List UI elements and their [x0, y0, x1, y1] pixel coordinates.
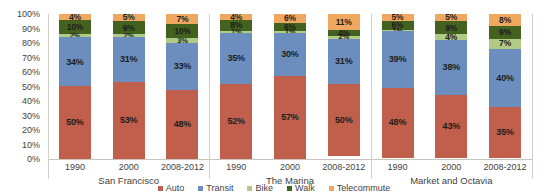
bar-segment-transit[interactable]: 38% [435, 40, 467, 95]
stacked-bar[interactable]: 4%10%2%34%50% [59, 14, 91, 159]
bar-segment-auto[interactable]: 35% [489, 107, 521, 158]
y-axis-tick: 40% [22, 97, 40, 106]
y-axis-tick: 60% [22, 68, 40, 77]
bar-segment-label: 7% [499, 39, 511, 48]
x-axis-tick-label: 2000 [263, 160, 317, 175]
bar-segment-auto[interactable]: 48% [382, 88, 414, 158]
y-axis-tick: 20% [22, 126, 40, 135]
bar-segment-label: 53% [120, 116, 137, 125]
bar-group: 4%8%1%35%52%6%6%1%30%57%11%4%2%31%50%199… [209, 14, 370, 159]
y-axis-tick: 30% [22, 111, 40, 120]
bar-segment-transit[interactable]: 33% [166, 43, 198, 90]
bar-segment-label: 30% [281, 50, 298, 59]
bar-segment-label: 48% [174, 120, 191, 129]
bar-segment-label: 7% [176, 15, 188, 24]
legend-item-bike[interactable]: Bike [247, 184, 273, 193]
y-axis-tick: 50% [22, 82, 40, 91]
bar-segment-transit[interactable]: 34% [59, 37, 91, 86]
bar-segment-auto[interactable]: 57% [274, 76, 306, 159]
chart-legend: AutoTransitBikeWalkTelecommute [0, 184, 548, 193]
bar-segment-label: 31% [120, 55, 137, 64]
y-axis-tick: 100% [17, 10, 40, 19]
x-axis-tick-label: 1990 [371, 160, 425, 175]
legend-item-auto[interactable]: Auto [158, 184, 185, 193]
bar-segment-auto[interactable]: 50% [59, 86, 91, 159]
y-axis-tick: 90% [22, 24, 40, 33]
legend-label: Transit [206, 184, 233, 193]
bar-group-bars: 4%8%1%35%52%6%6%1%30%57%11%4%2%31%50% [209, 14, 370, 159]
bar-segment-label: 43% [443, 122, 460, 131]
x-axis-tick-row: 199020002008-2012 [209, 160, 370, 175]
bar-segment-transit[interactable]: 40% [489, 49, 521, 107]
stacked-bar-chart: 100%90%80%70%60%50%40%30%20%10%0% 4%10%2… [0, 0, 548, 195]
x-axis-tick-label: 2008-2012 [478, 160, 532, 175]
bar-segment-transit[interactable]: 35% [220, 33, 252, 84]
bar-segment-transit[interactable]: 30% [274, 33, 306, 77]
legend-swatch-icon [247, 186, 252, 191]
legend-item-telecommute[interactable]: Telecommute [329, 184, 391, 193]
y-axis-tick: 0% [27, 155, 40, 164]
x-axis-tick-label: 1990 [48, 160, 102, 175]
legend-label: Walk [295, 184, 315, 193]
legend-swatch-icon [329, 186, 334, 191]
y-axis-tick: 70% [22, 53, 40, 62]
bar-segment-label: 50% [335, 116, 352, 125]
bar-segment-label: 9% [499, 28, 511, 37]
bar-group: 5%6%1%39%48%5%9%4%38%43%8%9%7%40%35%1990… [371, 14, 532, 159]
bar-segment-telecommute[interactable]: 7% [166, 14, 198, 24]
x-axis-tick-label: 2008-2012 [317, 160, 371, 175]
stacked-bar[interactable]: 11%4%2%31%50% [328, 14, 360, 159]
bar-segment-auto[interactable]: 48% [166, 90, 198, 159]
bar-segment-label: 9% [445, 24, 457, 33]
bar-segment-auto[interactable]: 53% [113, 82, 145, 159]
bar-segment-transit[interactable]: 31% [113, 37, 145, 82]
y-axis-tick: 80% [22, 39, 40, 48]
x-axis-tick-label: 2008-2012 [156, 160, 210, 175]
bar-segment-telecommute[interactable]: 5% [435, 14, 467, 21]
bar-segment-auto[interactable]: 52% [220, 84, 252, 159]
bar-segment-walk[interactable]: 9% [489, 26, 521, 39]
bar-segment-auto[interactable]: 50% [328, 84, 360, 157]
x-axis-tick-row: 199020002008-2012 [48, 160, 209, 175]
group-separator [532, 14, 533, 179]
bar-segment-label: 33% [174, 62, 191, 71]
x-axis-tick-label: 1990 [209, 160, 263, 175]
bar-segment-label: 50% [66, 118, 83, 127]
x-axis-tick-row: 199020002008-2012 [371, 160, 532, 175]
legend-label: Auto [166, 184, 185, 193]
legend-label: Telecommute [337, 184, 391, 193]
bar-segment-bike[interactable]: 7% [489, 39, 521, 49]
stacked-bar[interactable]: 7%10%3%33%48% [166, 14, 198, 159]
bar-segment-label: 34% [66, 58, 83, 67]
bar-segment-label: 52% [227, 117, 244, 126]
x-axis-tick-label: 2000 [424, 160, 478, 175]
bar-segment-auto[interactable]: 43% [435, 95, 467, 157]
bar-segment-label: 48% [389, 118, 406, 127]
stacked-bar[interactable]: 8%9%7%40%35% [489, 14, 521, 159]
y-axis-tick: 10% [22, 140, 40, 149]
bar-group-bars: 4%10%2%34%50%5%9%2%31%53%7%10%3%33%48% [48, 14, 209, 159]
stacked-bar[interactable]: 5%9%2%31%53% [113, 14, 145, 159]
bar-segment-label: 40% [496, 74, 513, 83]
bar-segment-telecommute[interactable]: 5% [113, 14, 145, 21]
legend-item-transit[interactable]: Transit [198, 184, 233, 193]
bar-segment-label: 35% [227, 54, 244, 63]
legend-label: Bike [255, 184, 273, 193]
y-axis: 100%90%80%70%60%50%40%30%20%10%0% [0, 14, 44, 159]
group-separator [371, 14, 372, 179]
bar-segment-transit[interactable]: 31% [328, 39, 360, 84]
group-separator [209, 14, 210, 179]
legend-swatch-icon [158, 186, 163, 191]
legend-swatch-icon [198, 186, 203, 191]
group-separator [48, 14, 49, 179]
stacked-bar[interactable]: 6%6%1%30%57% [274, 14, 306, 159]
stacked-bar[interactable]: 5%6%1%39%48% [382, 14, 414, 159]
bar-group: 4%10%2%34%50%5%9%2%31%53%7%10%3%33%48%19… [48, 14, 209, 159]
stacked-bar[interactable]: 5%9%4%38%43% [435, 14, 467, 159]
legend-item-walk[interactable]: Walk [287, 184, 315, 193]
bar-segment-transit[interactable]: 39% [382, 31, 414, 88]
stacked-bar[interactable]: 4%8%1%35%52% [220, 14, 252, 159]
bar-segment-telecommute[interactable]: 8% [489, 14, 521, 26]
legend-swatch-icon [287, 186, 292, 191]
bar-segment-label: 57% [281, 113, 298, 122]
